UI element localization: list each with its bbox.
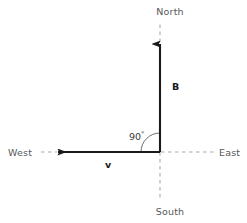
magnetic-field-label: B <box>172 81 179 92</box>
angle-value: 90 <box>129 131 141 142</box>
angle-label: 90° <box>129 130 144 142</box>
degree-symbol-icon: ° <box>141 130 144 138</box>
compass-label-north: North <box>156 6 184 17</box>
vector-diagram-figure: North South East West B v 90° <box>0 0 247 223</box>
compass-label-west: West <box>8 147 32 158</box>
dashed-axes-group <box>41 22 214 200</box>
compass-label-east: East <box>219 147 240 158</box>
velocity-label: v <box>105 159 112 170</box>
diagram-canvas: North South East West B v 90° <box>0 0 247 223</box>
compass-label-south: South <box>156 206 185 217</box>
